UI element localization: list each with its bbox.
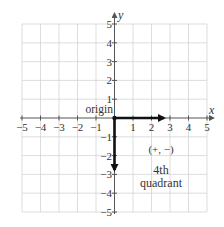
x-tick-label: 4 [186,121,192,133]
y-tick-label: 5 [107,18,113,30]
x-tick-label: −5 [16,121,28,133]
x-axis-label: x [208,103,215,117]
x-tick-label: −4 [35,121,47,133]
x-tick-label: 2 [149,121,155,133]
x-tick-label: −2 [72,121,84,133]
y-tick-label: 3 [107,56,113,68]
y-tick-label: −2 [100,150,112,162]
y-tick-label: 4 [107,37,113,49]
y-tick-label: −5 [100,206,112,218]
y-tick-label: −3 [100,168,112,180]
y-axis-label: y [117,8,124,22]
axes [20,14,213,214]
x-tick-label: 5 [204,121,210,133]
origin-label: origin [86,103,114,116]
y-tick-label: −1 [100,131,112,143]
origin-point [112,116,116,120]
x-tick-label: −3 [53,121,65,133]
quadrant-label-line1: 4th [153,163,168,177]
x-tick-label: 1 [130,121,136,133]
quadrant-label-line2: quadrant [140,176,183,190]
coordinate-plane: −5 −4 −3 −2 −1 1 2 3 4 5 5 4 3 2 1 −1 −2… [0,0,224,227]
x-tick-label: 3 [167,121,173,133]
y-tick-label: −4 [100,187,112,199]
x-tick-labels: −5 −4 −3 −2 −1 1 2 3 4 5 [16,121,210,133]
y-tick-label: 2 [107,74,113,86]
sign-label: (+, −) [148,143,174,156]
